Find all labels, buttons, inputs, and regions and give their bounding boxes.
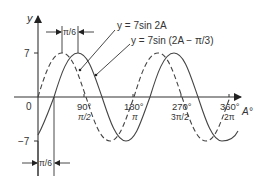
y-max-label: 7 xyxy=(24,48,30,59)
tick-label-180-deg: 180° xyxy=(124,101,144,112)
phase-label-top: π/6 xyxy=(63,27,76,37)
tick-label-90-deg: 90° xyxy=(77,101,92,112)
leader-line-series1 xyxy=(80,30,115,70)
y-axis-label: y xyxy=(26,12,34,24)
x-axis-label: A° xyxy=(241,106,253,117)
leader-dot-series1 xyxy=(79,69,82,72)
leader-line-series2 xyxy=(96,44,130,75)
phase-label-bottom: π/6 xyxy=(39,158,52,168)
y-min-label: −7 xyxy=(18,136,30,147)
sine-graph-figure: y A° 0 7 −7 π/6 π/6 y = 7sin 2A y = 7sin… xyxy=(0,0,276,189)
tick-label-180-rad: π xyxy=(132,112,138,122)
chart-canvas: y A° 0 7 −7 π/6 π/6 y = 7sin 2A y = 7sin… xyxy=(0,0,276,189)
leader-dot-series2 xyxy=(95,74,98,77)
tick-label-270-deg: 270° xyxy=(172,101,192,112)
series2-label: y = 7sin (2A − π/3) xyxy=(131,35,214,46)
series1-label: y = 7sin 2A xyxy=(117,20,167,31)
tick-label-360-rad: 2π xyxy=(224,112,235,122)
origin-label: 0 xyxy=(26,101,32,112)
tick-label-90-rad: π/2 xyxy=(78,112,91,122)
tick-label-270-rad: 3π/2 xyxy=(171,112,189,122)
tick-label-360-deg: 360° xyxy=(220,101,240,112)
